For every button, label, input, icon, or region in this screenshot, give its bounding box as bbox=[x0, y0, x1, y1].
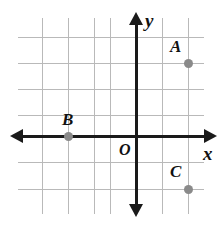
point-label-c: C bbox=[170, 163, 181, 180]
gridline-vertical bbox=[110, 18, 111, 214]
y-axis-up-arrow-icon bbox=[129, 12, 143, 25]
y-axis-down-arrow-icon bbox=[129, 204, 143, 217]
gridline-vertical bbox=[42, 18, 43, 214]
data-point-c bbox=[184, 185, 193, 194]
gridline-horizontal bbox=[18, 63, 204, 64]
origin-label: O bbox=[119, 142, 131, 158]
x-axis-label: x bbox=[203, 144, 213, 163]
y-axis-label: y bbox=[145, 11, 153, 30]
x-axis-right-arrow-icon bbox=[204, 129, 217, 143]
data-point-a bbox=[184, 59, 193, 68]
gridline-vertical bbox=[162, 18, 163, 214]
coordinate-plane: y x O ABC bbox=[0, 0, 221, 227]
gridline-horizontal bbox=[18, 189, 204, 190]
y-axis bbox=[135, 24, 138, 206]
gridline-horizontal bbox=[18, 89, 204, 90]
point-label-b: B bbox=[62, 111, 73, 128]
data-point-b bbox=[64, 132, 73, 141]
x-axis-left-arrow-icon bbox=[10, 129, 23, 143]
x-axis bbox=[22, 135, 206, 138]
gridline-horizontal bbox=[18, 115, 204, 116]
gridline-vertical bbox=[94, 18, 95, 214]
point-label-a: A bbox=[170, 38, 181, 55]
